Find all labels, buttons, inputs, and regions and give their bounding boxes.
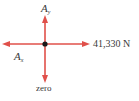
label-ay-symbol: A xyxy=(41,2,48,14)
arrow-right-force xyxy=(45,41,90,47)
free-body-diagram: Ay Ax 41,330 N zero xyxy=(0,0,139,101)
pin-point xyxy=(42,41,47,46)
arrow-down-zero xyxy=(42,44,48,83)
label-ay: Ay xyxy=(41,3,50,15)
label-ax: Ax xyxy=(14,51,23,63)
arrow-up-ay xyxy=(42,15,48,44)
label-ax-symbol: A xyxy=(14,50,21,62)
label-zero: zero xyxy=(36,84,52,93)
label-ay-subscript: y xyxy=(48,9,51,15)
label-force-value: 41,330 N xyxy=(93,39,130,49)
label-ax-subscript: x xyxy=(21,57,24,63)
arrow-left-ax xyxy=(2,41,45,47)
